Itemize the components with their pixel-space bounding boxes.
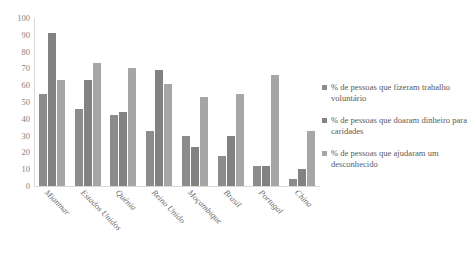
x-axis-label-cell: China <box>284 189 320 259</box>
y-axis-tick-label: 40 <box>22 115 31 124</box>
legend-swatch-icon <box>322 118 327 123</box>
bar <box>110 115 118 186</box>
bar-groups <box>34 18 320 186</box>
bar <box>200 97 208 186</box>
legend-item: % de pessoas que fizeram trabalho volunt… <box>322 82 470 104</box>
x-axis-category-label: Brasil <box>222 188 243 209</box>
bar <box>75 109 83 186</box>
x-axis-label-cell: Quénia <box>106 189 142 259</box>
bar <box>93 63 101 186</box>
bar <box>48 33 56 186</box>
bar <box>262 166 270 186</box>
x-axis-label-cell: Reino Unido <box>141 189 177 259</box>
legend-swatch-icon <box>322 151 327 156</box>
x-axis-category-label: Mianmar <box>43 188 71 216</box>
bar <box>57 80 65 186</box>
bar-group <box>141 18 177 186</box>
bar-group <box>249 18 285 186</box>
bar <box>84 80 92 186</box>
legend-label: % de pessoas que ajudaram um desconhecid… <box>331 148 470 170</box>
bar <box>182 136 190 186</box>
bar <box>39 94 47 186</box>
x-axis-label-cell: Portugal <box>249 189 285 259</box>
bar-group <box>213 18 249 186</box>
bar-chart: 1009080706050403020100 MianmarEstados Un… <box>0 0 473 260</box>
bar <box>164 84 172 186</box>
y-axis-tick-label: 0 <box>26 182 30 191</box>
y-axis-tick-label: 10 <box>22 165 31 174</box>
plot-area: 1009080706050403020100 <box>34 18 320 186</box>
legend-label: % de pessoas que doaram dinheiro para ca… <box>331 115 470 137</box>
x-axis-label-cell: Mianmar <box>34 189 70 259</box>
bar <box>119 112 127 186</box>
bar-group <box>284 18 320 186</box>
y-axis-tick-label: 30 <box>22 131 31 140</box>
legend-label: % de pessoas que fizeram trabalho volunt… <box>331 82 470 104</box>
bar-group <box>106 18 142 186</box>
y-axis-tick-label: 50 <box>22 98 31 107</box>
x-axis-category-label: Portugal <box>258 188 285 215</box>
legend-swatch-icon <box>322 85 327 90</box>
x-axis-category-labels: MianmarEstados UnidosQuéniaReino UnidoMo… <box>34 189 320 259</box>
bar <box>289 179 297 186</box>
bar-group <box>177 18 213 186</box>
bar <box>155 70 163 186</box>
bar <box>128 68 136 186</box>
chart-legend: % de pessoas que fizeram trabalho volunt… <box>322 82 470 181</box>
bar <box>218 156 226 186</box>
bar <box>191 147 199 186</box>
y-axis-tick-label: 60 <box>22 81 31 90</box>
y-axis-tick-label: 70 <box>22 64 31 73</box>
x-axis-category-label: China <box>293 188 314 209</box>
y-axis-tick-label: 80 <box>22 47 31 56</box>
legend-item: % de pessoas que doaram dinheiro para ca… <box>322 115 470 137</box>
bar <box>227 136 235 186</box>
y-axis-tick-label: 20 <box>22 148 31 157</box>
y-axis-tick-label: 90 <box>22 31 31 40</box>
bar-group <box>70 18 106 186</box>
bar <box>236 94 244 186</box>
x-axis-label-cell: Estados Unidos <box>70 189 106 259</box>
legend-item: % de pessoas que ajudaram um desconhecid… <box>322 148 470 170</box>
bar <box>253 166 261 186</box>
x-axis-label-cell: Brasil <box>213 189 249 259</box>
x-axis-label-cell: Moçambique <box>177 189 213 259</box>
bar <box>146 131 154 186</box>
bar <box>307 131 315 186</box>
x-axis-line <box>34 186 320 187</box>
bar <box>298 169 306 186</box>
x-axis-category-label: Quénia <box>115 188 139 212</box>
bar <box>271 75 279 186</box>
bar-group <box>34 18 70 186</box>
y-axis-tick-label: 100 <box>17 14 30 23</box>
